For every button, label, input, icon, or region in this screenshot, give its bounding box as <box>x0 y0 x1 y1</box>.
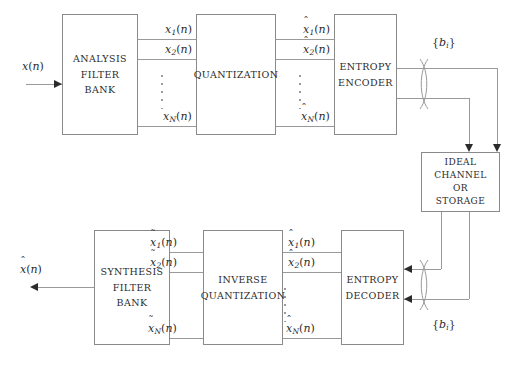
synthesis-line-2: FILTER <box>113 280 152 296</box>
inverse-quantization-line-2: QUANTIZATION <box>201 288 286 304</box>
bitstream-bottom-arrowhead-b <box>404 295 412 303</box>
subband-coding-diagram: x(n) ANALYSIS FILTER BANK x1(n) x2(n) xN… <box>0 0 521 375</box>
channel-line-2: CHANNEL <box>434 169 486 182</box>
bitstream-top-line-a <box>397 68 497 69</box>
bitstream-bottom-arrowhead-a <box>404 265 412 273</box>
reconstructed-label-n: ˜xN(n) <box>148 322 177 336</box>
quantized-label-n: ˆxN(n) <box>301 110 330 124</box>
subband-label-1: x1(n) <box>165 23 192 37</box>
inverse-quantization-line-1: INVERSE <box>218 272 267 288</box>
bitstream-top-label: {bi} <box>432 36 456 50</box>
entropy-decoder-line-2: DECODER <box>345 288 399 304</box>
channel-line-1: IDEAL <box>445 156 477 169</box>
bitstream-top-arrowhead-a <box>493 144 501 152</box>
analysis-filter-bank-block: ANALYSIS FILTER BANK <box>62 14 138 135</box>
inverse-quantization-block: INVERSE QUANTIZATION <box>203 230 283 345</box>
entropy-decoder-line-1: ENTROPY <box>347 272 399 288</box>
channel-line-3: OR <box>453 182 468 195</box>
input-arrowhead <box>54 80 62 88</box>
output-line <box>36 287 94 288</box>
analysis-line-1: ANALYSIS <box>73 51 127 67</box>
entropy-encoder-line-2: ENCODER <box>338 75 393 91</box>
dequantized-line-n <box>283 338 341 339</box>
bitstream-top-arrowhead-b <box>465 144 473 152</box>
subband-ellipsis <box>160 75 164 109</box>
subband-label-n: xN(n) <box>163 110 192 124</box>
reconstructed-label-2: ˜x2(n) <box>150 256 177 270</box>
channel-line-4: STORAGE <box>436 195 485 208</box>
bitstream-bottom-drop-a <box>441 212 442 269</box>
ideal-channel-block: IDEAL CHANNEL OR STORAGE <box>421 152 500 212</box>
synthesis-line-3: BANK <box>117 295 148 311</box>
bitstream-top-bundle-icon <box>414 58 434 110</box>
subband-line-n <box>138 126 196 127</box>
bitstream-bottom-drop-b <box>469 212 470 299</box>
entropy-encoder-block: ENTROPY ENCODER <box>334 14 397 135</box>
output-arrowhead <box>30 283 38 291</box>
bitstream-top-drop-b <box>469 98 470 144</box>
analysis-line-3: BANK <box>85 82 116 98</box>
bitstream-bottom-label: {bi} <box>432 318 456 332</box>
subband-line-2 <box>138 59 196 60</box>
output-signal-label: ˆx(n) <box>20 263 42 276</box>
input-signal-label: x(n) <box>22 60 44 73</box>
entropy-encoder-line-1: ENTROPY <box>340 59 392 75</box>
dequantized-line-2 <box>283 272 341 273</box>
bitstream-top-drop-a <box>497 68 498 144</box>
quantization-block: QUANTIZATION <box>196 14 276 135</box>
dequantized-label-n: ˆxN(n) <box>286 322 315 336</box>
subband-line-1 <box>138 39 196 40</box>
dequantized-label-2: ˆx2(n) <box>288 256 315 270</box>
entropy-decoder-block: ENTROPY DECODER <box>341 230 404 345</box>
quantized-line-2 <box>276 59 334 60</box>
analysis-line-2: FILTER <box>81 67 120 83</box>
quantization-line-1: QUANTIZATION <box>194 67 279 83</box>
bitstream-bottom-bundle-icon <box>414 259 434 311</box>
quantized-line-n <box>276 126 334 127</box>
subband-label-2: x2(n) <box>165 43 192 57</box>
quantized-label-2: ˆx2(n) <box>303 43 330 57</box>
